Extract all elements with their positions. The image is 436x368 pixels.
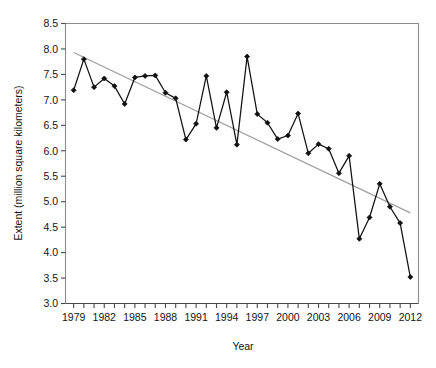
y-tick-label: 8.5 bbox=[43, 17, 58, 29]
x-tick-label: 2012 bbox=[399, 311, 423, 323]
x-tick-label: 1988 bbox=[154, 311, 178, 323]
x-tick-label: 2003 bbox=[307, 311, 331, 323]
x-tick-label: 1994 bbox=[215, 311, 239, 323]
x-tick-label: 2000 bbox=[276, 311, 300, 323]
y-tick-label: 7.5 bbox=[43, 68, 58, 80]
y-tick-label: 4.5 bbox=[43, 221, 58, 233]
x-tick-label: 1979 bbox=[62, 311, 86, 323]
y-tick-label: 6.5 bbox=[43, 119, 58, 131]
x-tick-label: 2006 bbox=[337, 311, 361, 323]
y-tick-label: 4.0 bbox=[43, 246, 58, 258]
x-tick-label: 1982 bbox=[93, 311, 117, 323]
x-tick-label: 1985 bbox=[123, 311, 147, 323]
y-tick-label: 8.0 bbox=[43, 43, 58, 55]
y-tick-label: 3.0 bbox=[43, 297, 58, 309]
chart-canvas: 3.03.54.04.55.05.56.06.57.07.58.08.5 197… bbox=[0, 0, 436, 368]
y-tick-label: 3.5 bbox=[43, 272, 58, 284]
y-tick-label: 6.0 bbox=[43, 145, 58, 157]
sea-ice-extent-chart: 3.03.54.04.55.05.56.06.57.07.58.08.5 197… bbox=[0, 0, 436, 368]
y-axis-title: Extent (million square kilometers) bbox=[12, 85, 24, 240]
x-axis-title: Year bbox=[232, 340, 254, 352]
y-tick-label: 7.0 bbox=[43, 94, 58, 106]
y-tick-label: 5.5 bbox=[43, 170, 58, 182]
x-tick-label: 1991 bbox=[184, 311, 208, 323]
x-tick-label: 1997 bbox=[246, 311, 270, 323]
y-tick-label: 5.0 bbox=[43, 195, 58, 207]
x-tick-label: 2009 bbox=[368, 311, 392, 323]
